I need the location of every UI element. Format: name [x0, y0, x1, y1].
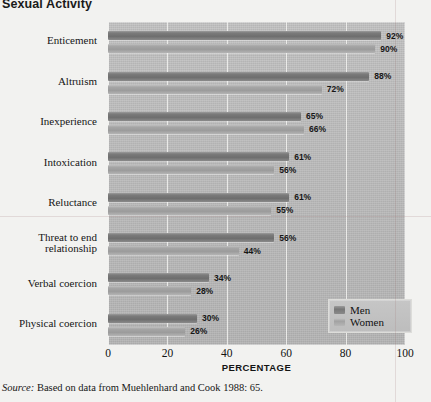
- bar-value-label: 30%: [202, 313, 219, 323]
- category-label-7: Physical coercion: [0, 318, 103, 330]
- bar-men-4: 61%: [108, 193, 289, 202]
- x-axis-ticks: 020406080100: [108, 347, 405, 363]
- bar-group-item: 61%: [108, 193, 289, 202]
- category-label-3: Intoxication: [0, 157, 103, 169]
- gridline-100: [405, 22, 406, 345]
- legend-item-women: Women: [334, 316, 406, 328]
- bar-value-label: 90%: [380, 44, 397, 54]
- bar-women-6: 28%: [108, 286, 191, 295]
- x-tick-100: 100: [396, 347, 413, 359]
- bar-value-label: 61%: [294, 192, 311, 202]
- x-tick-60: 60: [280, 347, 292, 359]
- category-label-0: Enticement: [0, 35, 103, 47]
- bar-men-6: 34%: [108, 273, 209, 282]
- bar-value-label: 55%: [276, 205, 293, 215]
- x-tick-0: 0: [105, 347, 111, 359]
- bar-men-2: 65%: [108, 112, 301, 121]
- bar-value-label: 66%: [309, 124, 326, 134]
- bar-value-label: 65%: [306, 111, 323, 121]
- source-note: Source: Based on data from Muehlenhard a…: [2, 382, 263, 393]
- bar-women-3: 56%: [108, 165, 274, 174]
- bar-group-item: 88%: [108, 72, 369, 81]
- plot-texture: [108, 22, 405, 345]
- bar-group-item: 30%: [108, 314, 197, 323]
- legend-swatch-women-icon: [334, 318, 345, 326]
- bar-group-item: 55%: [108, 206, 271, 215]
- gridline-40: [227, 22, 228, 345]
- bar-value-label: 56%: [279, 165, 296, 175]
- category-label-6: Verbal coercion: [0, 278, 103, 290]
- source-text: Based on data from Muehlenhard and Cook …: [34, 382, 263, 393]
- bar-women-4: 55%: [108, 206, 271, 215]
- legend-label-men: Men: [350, 305, 370, 316]
- bar-group-item: 34%: [108, 273, 209, 282]
- bar-value-label: 34%: [214, 273, 231, 283]
- bar-men-0: 92%: [108, 31, 381, 40]
- gridline-80: [346, 22, 347, 345]
- category-axis-labels: EnticementAltruismInexperienceIntoxicati…: [0, 22, 103, 345]
- source-prefix: Source:: [2, 382, 34, 393]
- bar-value-label: 61%: [294, 152, 311, 162]
- bar-group-item: 28%: [108, 286, 191, 295]
- bar-men-5: 56%: [108, 233, 274, 242]
- bar-women-7: 26%: [108, 327, 185, 336]
- bar-men-1: 88%: [108, 72, 369, 81]
- bar-value-label: 92%: [386, 31, 403, 41]
- bar-group-item: 65%: [108, 112, 301, 121]
- bar-group-item: 92%: [108, 31, 381, 40]
- category-label-1: Altruism: [0, 76, 103, 88]
- x-tick-80: 80: [340, 347, 352, 359]
- page-title: Sexual Activity: [2, 0, 92, 11]
- bar-value-label: 44%: [244, 246, 261, 256]
- legend-item-men: Men: [334, 304, 406, 316]
- bar-value-label: 56%: [279, 233, 296, 243]
- bar-women-2: 66%: [108, 125, 304, 134]
- bar-men-7: 30%: [108, 314, 197, 323]
- bar-group-item: 72%: [108, 85, 322, 94]
- bar-group-item: 66%: [108, 125, 304, 134]
- bar-value-label: 26%: [190, 326, 207, 336]
- bar-group-item: 56%: [108, 233, 274, 242]
- category-label-4: Reluctance: [0, 197, 103, 209]
- gridline-20: [167, 22, 168, 345]
- x-tick-20: 20: [162, 347, 174, 359]
- bar-women-5: 44%: [108, 246, 239, 255]
- bar-women-1: 72%: [108, 85, 322, 94]
- x-axis-title: PERCENTAGE: [108, 362, 405, 373]
- bar-women-0: 90%: [108, 44, 375, 53]
- bar-value-label: 72%: [327, 84, 344, 94]
- bar-value-label: 28%: [196, 286, 213, 296]
- bar-group-item: 44%: [108, 246, 239, 255]
- category-label-2: Inexperience: [0, 116, 103, 128]
- gridline-60: [286, 22, 287, 345]
- legend-swatch-men-icon: [334, 306, 345, 314]
- chart-plot-area: 92%90%88%72%65%66%61%56%61%55%56%44%34%2…: [108, 22, 405, 345]
- x-tick-40: 40: [221, 347, 233, 359]
- chart-legend: Men Women: [328, 299, 412, 333]
- bar-value-label: 88%: [374, 71, 391, 81]
- legend-label-women: Women: [350, 317, 384, 328]
- bar-men-3: 61%: [108, 152, 289, 161]
- bar-group-item: 90%: [108, 44, 375, 53]
- gridline-0: [108, 22, 109, 345]
- bar-group-item: 56%: [108, 165, 274, 174]
- bar-group-item: 26%: [108, 327, 185, 336]
- category-label-5: Threat to end relationship: [0, 232, 103, 255]
- bar-group-item: 61%: [108, 152, 289, 161]
